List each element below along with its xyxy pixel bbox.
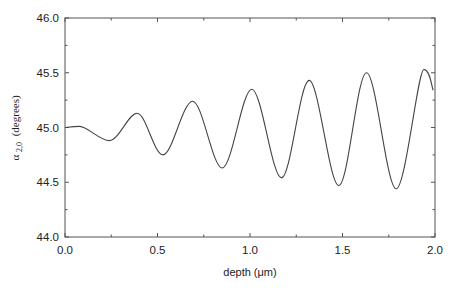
axis-ticks	[65, 18, 435, 237]
x-tick-labels: 0.00.51.01.52.0	[57, 244, 443, 256]
x-tick-label: 0.0	[57, 244, 73, 256]
y-axis-symbol: α	[9, 155, 21, 161]
svg-text:α 2,0 (degrees): α 2,0 (degrees)	[9, 95, 24, 161]
x-tick-label: 0.5	[150, 244, 166, 256]
y-tick-label: 44.5	[37, 176, 59, 188]
x-tick-label: 1.5	[335, 244, 351, 256]
plot-frame	[65, 18, 435, 237]
y-axis-unit: (degrees)	[9, 95, 22, 136]
y-tick-label: 45.0	[37, 122, 59, 134]
x-tick-label: 2.0	[427, 244, 443, 256]
x-axis-label: depth (μm)	[223, 266, 276, 278]
x-tick-label: 1.0	[242, 244, 258, 256]
y-tick-labels: 44.044.545.045.546.0	[37, 12, 59, 243]
data-series-line	[65, 69, 433, 188]
y-tick-label: 45.5	[37, 67, 59, 79]
y-tick-label: 44.0	[37, 231, 59, 243]
y-axis-label: α 2,0 (degrees)	[9, 95, 24, 161]
y-tick-label: 46.0	[37, 12, 59, 24]
y-axis-subscript: 2,0	[15, 142, 24, 152]
line-chart: 44.044.545.045.546.0 0.00.51.01.52.0 dep…	[0, 0, 459, 294]
